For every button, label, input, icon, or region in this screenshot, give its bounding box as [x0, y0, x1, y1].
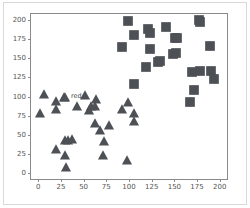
y-tick-label: 175	[13, 36, 26, 43]
scatter-plot-area: red	[31, 14, 227, 179]
data-point-triangles	[66, 134, 77, 145]
x-tick-mark	[106, 179, 107, 182]
data-point-triangles	[91, 93, 102, 104]
x-tick-label: 175	[190, 184, 203, 191]
data-point-squares	[123, 15, 134, 26]
x-tick-mark	[174, 179, 175, 182]
data-point-squares	[161, 21, 172, 32]
y-tick-label: 200	[13, 17, 26, 24]
data-point-triangles	[104, 119, 115, 130]
data-point-triangles	[35, 108, 46, 119]
data-point-squares	[204, 41, 215, 52]
x-tick-mark	[129, 179, 130, 182]
data-point-squares	[194, 65, 205, 76]
x-tick-label: 125	[145, 184, 158, 191]
x-tick-label: 0	[36, 184, 40, 191]
data-point-triangles	[61, 161, 72, 172]
data-point-triangles	[72, 100, 83, 111]
data-point-triangles	[123, 96, 134, 107]
y-tick-label: 100	[13, 93, 26, 100]
y-tick-label: 125	[13, 74, 26, 81]
x-tick-mark	[197, 179, 198, 182]
y-tick-label: 50	[17, 131, 26, 138]
x-tick-mark	[152, 179, 153, 182]
data-point-squares	[154, 56, 165, 67]
x-tick-mark	[84, 179, 85, 182]
data-point-squares	[209, 73, 220, 84]
x-tick-label: 200	[213, 184, 226, 191]
x-tick-label: 50	[79, 184, 88, 191]
data-point-squares	[184, 96, 195, 107]
data-point-triangles	[59, 149, 70, 160]
x-tick-label: 75	[102, 184, 111, 191]
data-point-squares	[128, 30, 139, 41]
x-tick-label: 150	[168, 184, 181, 191]
data-point-triangles	[38, 89, 49, 100]
data-point-squares	[172, 32, 183, 43]
data-point-triangles	[98, 135, 109, 146]
data-point-triangles	[129, 107, 140, 118]
figure-canvas: red 0255075100125150175200 0255075100125…	[0, 0, 250, 208]
data-point-squares	[129, 79, 140, 90]
y-tick-label: 25	[17, 150, 26, 157]
plot-axes: red 0255075100125150175200 0255075100125…	[30, 13, 228, 180]
data-point-triangles	[59, 91, 70, 102]
data-point-triangles	[51, 104, 62, 115]
y-tick-label: 150	[13, 55, 26, 62]
data-point-squares	[194, 17, 205, 28]
x-tick-label: 25	[56, 184, 65, 191]
x-tick-label: 100	[122, 184, 135, 191]
data-point-squares	[116, 41, 127, 52]
y-tick-label: 0	[22, 169, 26, 176]
data-point-triangles	[97, 150, 108, 161]
x-tick-mark	[61, 179, 62, 182]
data-point-squares	[144, 44, 155, 55]
data-point-squares	[144, 28, 155, 39]
x-tick-mark	[38, 179, 39, 182]
data-point-squares	[141, 61, 152, 72]
data-point-squares	[171, 47, 182, 58]
y-tick-label: 75	[17, 112, 26, 119]
data-point-triangles	[122, 154, 133, 165]
x-tick-mark	[220, 179, 221, 182]
plot-annotation: red	[71, 92, 82, 99]
data-point-squares	[189, 84, 200, 95]
